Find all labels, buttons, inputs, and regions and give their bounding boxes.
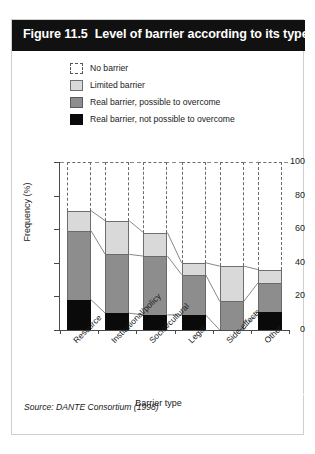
legend-swatch-real-not-possible-icon: [70, 114, 83, 125]
segment-no-barrier: [220, 162, 244, 266]
legend-swatch-no-barrier-icon: [70, 63, 83, 74]
figure-card: Figure 11.5Level of barrier according to…: [11, 19, 304, 435]
chart-plot-area: Frequency (%) 020406080100 ResourceInsti…: [12, 132, 305, 392]
segment-no-barrier: [143, 162, 167, 233]
legend-item-limited-barrier: Limited barrier: [70, 77, 300, 93]
chart-legend: No barrier Limited barrier Real barrier,…: [70, 60, 300, 128]
legend-swatch-real-possible-icon: [70, 97, 83, 108]
bar-other: [258, 162, 282, 330]
segment-no-barrier: [105, 162, 129, 221]
segment-limited: [143, 233, 167, 257]
legend-swatch-limited-barrier-icon: [70, 80, 83, 91]
segment-limited: [258, 270, 282, 283]
legend-label-real-not-possible: Real barrier, not possible to overcome: [90, 114, 235, 124]
segment-limited: [182, 263, 206, 275]
segment-no-barrier: [258, 162, 282, 270]
segment-limited: [220, 266, 244, 301]
segment-real-possible: [258, 283, 282, 312]
y-axis-title: Frequency (%): [22, 152, 32, 272]
legend-item-real-not-possible: Real barrier, not possible to overcome: [70, 111, 300, 127]
bar-resource: [67, 162, 91, 330]
page-title: Figure 11.5Level of barrier according to…: [23, 27, 309, 41]
source-divider: [12, 394, 305, 395]
legend-item-real-possible: Real barrier, possible to overcome: [70, 94, 300, 110]
figure-title-text: Level of barrier according to its type: [95, 27, 309, 41]
x-axis-labels: ResourceInstitutional/policySocial/cultu…: [60, 332, 300, 402]
segment-no-barrier: [182, 162, 206, 263]
legend-label-real-possible: Real barrier, possible to overcome: [90, 97, 220, 107]
segment-limited: [105, 221, 129, 255]
figure-number: Figure 11.5: [23, 27, 88, 41]
bars-container: [60, 162, 289, 330]
figure-title-bar: Figure 11.5Level of barrier according to…: [12, 20, 305, 51]
segment-real-possible: [67, 231, 91, 300]
legend-label-limited-barrier: Limited barrier: [90, 80, 145, 90]
figure-source: Source: DANTE Consortium (1998): [24, 402, 159, 412]
legend-item-no-barrier: No barrier: [70, 60, 300, 76]
segment-no-barrier: [67, 162, 91, 211]
segment-limited: [67, 211, 91, 231]
bar-institutional-policy: [105, 162, 129, 330]
bar-side-effects: [220, 162, 244, 330]
segment-real-possible: [105, 254, 129, 313]
legend-label-no-barrier: No barrier: [90, 63, 128, 73]
